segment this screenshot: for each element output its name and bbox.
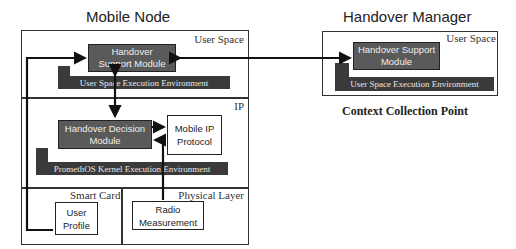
connection-arrows: [0, 0, 516, 249]
